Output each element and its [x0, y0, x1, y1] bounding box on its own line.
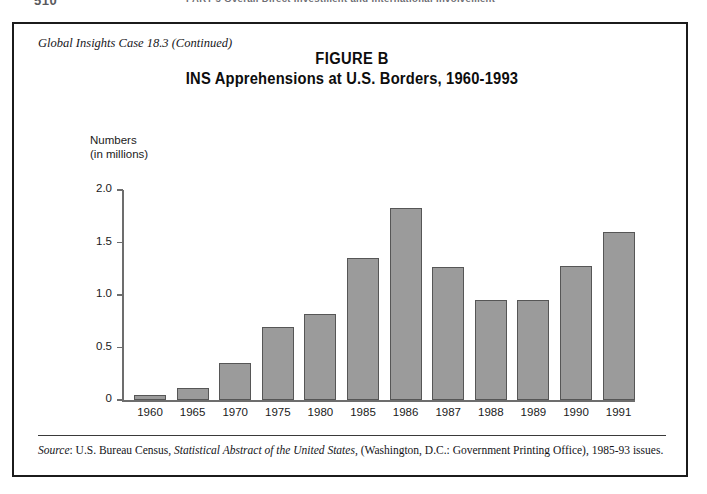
page-folio-number: 510 — [34, 0, 57, 8]
running-head: 510 PART 5 Overall Direct Investment and… — [0, 0, 707, 11]
x-tick-label: 1980 — [298, 406, 342, 418]
y-tick-mark — [117, 294, 123, 296]
x-axis-line — [122, 400, 635, 402]
source-divider — [38, 435, 666, 436]
y-tick-mark — [117, 399, 123, 401]
source-label: Source — [38, 444, 70, 456]
source-note: Source: U.S. Bureau Census, Statistical … — [38, 443, 672, 458]
y-axis-title-line1: Numbers — [90, 134, 148, 148]
scanned-page: 510 PART 5 Overall Direct Investment and… — [0, 0, 707, 494]
y-axis-title: Numbers (in millions) — [90, 134, 148, 161]
y-tick-label: 1.5 — [78, 235, 112, 247]
x-tick-label: 1965 — [171, 406, 215, 418]
figure-frame: Global Insights Case 18.3 (Continued) FI… — [12, 22, 688, 477]
source-text-part1: : U.S. Bureau Census, — [70, 444, 174, 456]
y-tick-label: 0.5 — [78, 340, 112, 352]
x-tick-label: 1985 — [341, 406, 385, 418]
x-tick-label: 1975 — [256, 406, 300, 418]
bar — [560, 266, 592, 400]
bar — [475, 300, 507, 400]
x-tick-label: 1988 — [469, 406, 513, 418]
bar — [517, 300, 549, 400]
bar — [390, 208, 422, 400]
y-tick-label: 2.0 — [78, 182, 112, 194]
bar — [432, 267, 464, 400]
bar — [603, 232, 635, 400]
source-title-italic: Statistical Abstract of the United State… — [174, 444, 355, 456]
x-tick-label: 1960 — [128, 406, 172, 418]
x-tick-label: 1991 — [597, 406, 641, 418]
bar — [134, 395, 166, 400]
bar-chart: Numbers (in millions) 2.01.51.00.50 1960… — [14, 24, 690, 479]
x-tick-label: 1970 — [213, 406, 257, 418]
bar — [304, 314, 336, 400]
x-tick-label: 1989 — [511, 406, 555, 418]
x-tick-label: 1986 — [384, 406, 428, 418]
y-tick-label: 0 — [78, 392, 112, 404]
bar — [219, 363, 251, 400]
bar — [177, 388, 209, 400]
x-tick-label: 1990 — [554, 406, 598, 418]
y-tick-mark — [117, 242, 123, 244]
bar — [262, 327, 294, 401]
y-tick-mark — [117, 189, 123, 191]
source-text-part2: , (Washington, D.C.: Government Printing… — [355, 444, 663, 456]
running-head-title: PART 5 Overall Direct Investment and Int… — [186, 0, 495, 4]
y-tick-mark — [117, 347, 123, 349]
y-tick-label: 1.0 — [78, 287, 112, 299]
bar — [347, 258, 379, 400]
x-tick-label: 1987 — [426, 406, 470, 418]
y-axis-title-line2: (in millions) — [90, 148, 148, 162]
